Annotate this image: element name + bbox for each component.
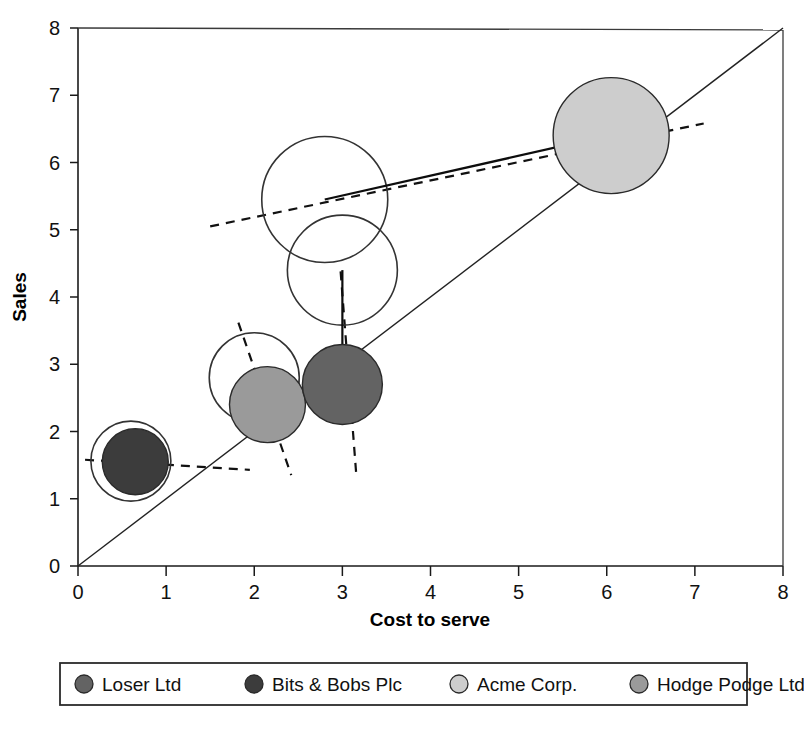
x-tick-label: 4 [425,581,436,603]
company-bubble[interactable] [102,429,168,495]
y-axis-title: Sales [9,272,30,322]
top-border [78,28,783,30]
y-tick-label: 8 [49,17,60,39]
y-tick-label: 4 [49,286,60,308]
x-tick-label: 1 [161,581,172,603]
x-tick-label: 6 [601,581,612,603]
company-bubble[interactable] [229,367,305,443]
company-bubble[interactable] [553,78,669,194]
y-tick-label: 7 [49,84,60,106]
y-tick-label: 3 [49,353,60,375]
x-tick-label: 3 [337,581,348,603]
x-axis-title: Cost to serve [370,609,490,630]
y-tick-label: 1 [49,488,60,510]
reference-line-layer [78,28,783,566]
x-tick-label: 0 [72,581,83,603]
legend-item-label[interactable]: Loser Ltd [102,674,181,695]
chart-canvas: 012345678 012345678 Cost to serve Sales … [0,0,804,730]
company-bubble[interactable] [302,344,382,424]
y-axis-ticks: 012345678 [49,17,78,577]
legend-item-label[interactable]: Bits & Bobs Plc [272,674,402,695]
x-tick-label: 5 [513,581,524,603]
break-even-line [78,28,783,566]
y-tick-label: 5 [49,219,60,241]
x-tick-label: 7 [689,581,700,603]
legend-swatch-icon [450,675,468,693]
legend-swatch-icon [75,675,93,693]
legend-swatch-icon [245,675,263,693]
y-tick-label: 6 [49,152,60,174]
company-bubbles [102,78,669,495]
legend-swatch-icon [630,675,648,693]
y-tick-label: 0 [49,555,60,577]
legend-item-label[interactable]: Hodge Podge Ltd [657,674,804,695]
x-tick-label: 8 [777,581,788,603]
chart-legend: Loser LtdBits & Bobs PlcAcme Corp.Hodge … [60,663,804,705]
x-tick-label: 2 [249,581,260,603]
x-axis-ticks: 012345678 [72,566,788,603]
legend-item-label[interactable]: Acme Corp. [477,674,577,695]
y-tick-label: 2 [49,421,60,443]
bubble-chart-figure: 012345678 012345678 Cost to serve Sales … [0,0,804,730]
